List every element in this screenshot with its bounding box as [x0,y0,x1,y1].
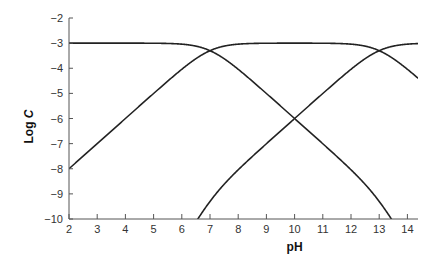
series-group [69,43,419,231]
x-tick-label: 8 [235,223,241,235]
x-tick-label: 9 [263,223,269,235]
y-tick-label: −3 [50,37,63,49]
x-tick-label: 11 [317,223,328,235]
x-tick-label: 6 [179,223,185,235]
x-tick-label: 3 [94,223,100,235]
x-tick-label: 12 [345,223,357,235]
x-tick-label: 7 [207,223,213,235]
x-ticks: 234567891011121314 [66,214,414,235]
y-tick-label: −9 [50,188,63,200]
x-tick-label: 14 [401,223,413,235]
y-axis-title: Log C [22,109,36,143]
y-tick-label: −8 [50,163,63,175]
y-axis-title-symbol: C [22,109,36,118]
y-tick-label: −4 [50,62,63,74]
y-axis-title-prefix: Log [22,118,36,143]
y-tick-label: −2 [50,12,63,24]
y-tick-label: −5 [50,87,63,99]
x-tick-label: 4 [122,223,128,235]
x-tick-label: 13 [373,223,385,235]
y-tick-label: −7 [50,138,63,150]
x-axis-title: pH [287,240,303,254]
series-line-ha [69,43,419,169]
x-tick-label: 10 [288,223,300,235]
x-tick-label: 2 [66,223,72,235]
speciation-chart: 234567891011121314 −2−3−4−5−6−7−8−9−10 p… [0,0,440,265]
series-line-a2 [190,44,418,231]
x-tick-label: 5 [151,223,157,235]
y-tick-label: −6 [50,113,63,125]
y-tick-label: −10 [44,213,63,225]
